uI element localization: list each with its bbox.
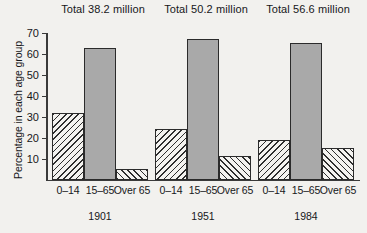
bar-1901-15-65 xyxy=(84,48,116,180)
bar-1951-over-65 xyxy=(219,156,251,179)
y-tick-label: 10 xyxy=(27,153,39,165)
y-tick-label: 20 xyxy=(27,132,39,144)
group-total-title-1984: Total 56.6 million xyxy=(253,3,363,15)
group-total-title-1901: Total 38.2 million xyxy=(49,3,157,15)
y-tick-mark xyxy=(42,75,47,76)
group-total-title-1951: Total 50.2 million xyxy=(152,3,260,15)
year-label-1951: 1951 xyxy=(155,210,251,222)
bar-1951-0-14 xyxy=(155,129,187,179)
y-tick-mark xyxy=(42,54,47,55)
y-tick-mark xyxy=(42,33,47,34)
x-axis-line xyxy=(46,180,360,182)
bar-1901-over-65 xyxy=(116,169,148,179)
y-tick-mark xyxy=(42,96,47,97)
y-tick-label: 40 xyxy=(27,90,39,102)
y-axis-title: Percentage in each age group xyxy=(12,30,24,190)
bar-1901-0-14 xyxy=(52,113,84,180)
y-tick-label: 70 xyxy=(27,27,39,39)
bar-1951-15-65 xyxy=(187,39,219,179)
bar-1984-15-65 xyxy=(290,43,322,179)
plot-area: 10203040506070 xyxy=(46,33,360,181)
year-label-1901: 1901 xyxy=(52,210,148,222)
bar-1984-over-65 xyxy=(322,148,354,179)
y-tick-mark xyxy=(42,159,47,160)
category-label: Over 65 xyxy=(113,184,151,196)
group-totals-row: Total 38.2 million Total 50.2 million To… xyxy=(0,0,367,22)
year-label-1984: 1984 xyxy=(258,210,354,222)
y-tick-mark xyxy=(42,138,47,139)
y-tick-mark xyxy=(42,117,47,118)
category-label: Over 65 xyxy=(319,184,357,196)
y-tick-label: 50 xyxy=(27,69,39,81)
bar-1984-0-14 xyxy=(258,140,290,180)
category-label: Over 65 xyxy=(216,184,254,196)
population-age-structure-chart: Total 38.2 million Total 50.2 million To… xyxy=(0,0,367,233)
y-tick-label: 60 xyxy=(27,48,39,60)
y-tick-label: 30 xyxy=(27,111,39,123)
